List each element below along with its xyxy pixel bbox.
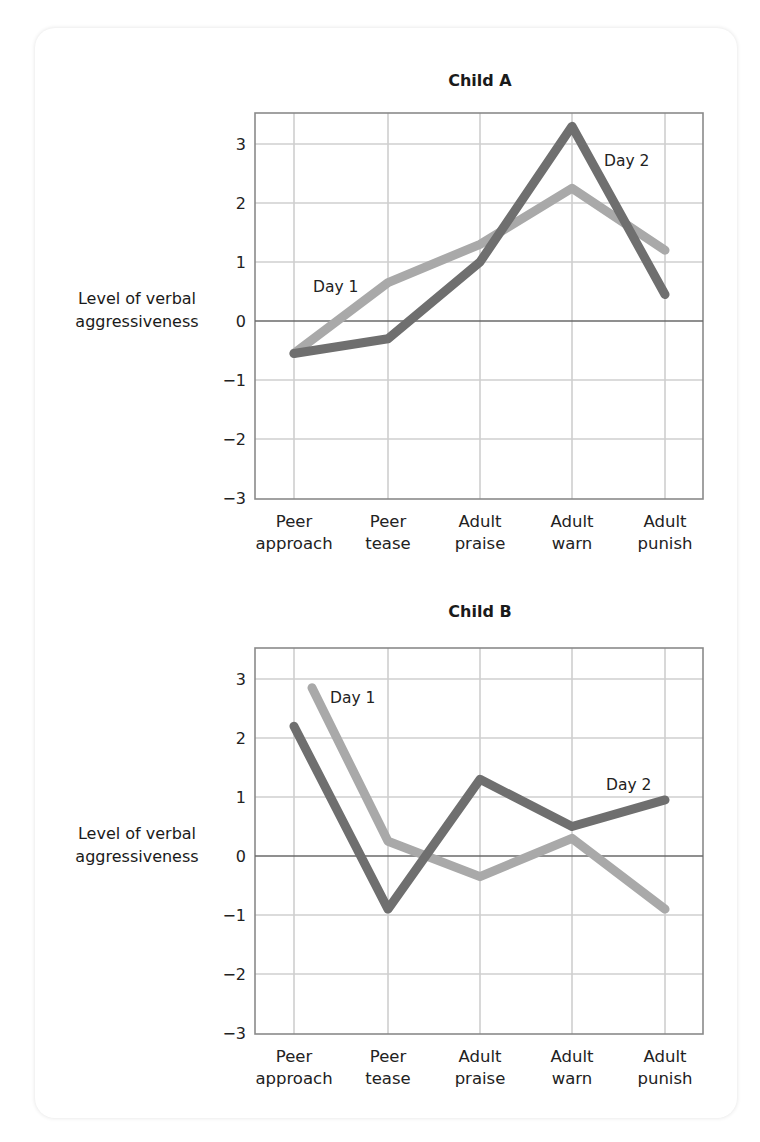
y-tick-label: −1 [222, 371, 246, 390]
y-tick-label: −1 [222, 906, 246, 925]
x-tick-label: Adult [551, 512, 595, 531]
y-tick-label: −2 [222, 430, 246, 449]
annotation-day-2: Day 2 [604, 152, 649, 170]
x-tick-label: Peer [276, 512, 313, 531]
y-tick-label: −3 [222, 1024, 246, 1043]
chart-child-a: Child A3210−1−2−3Level of verbalaggressi… [75, 71, 703, 553]
chart-child-b: Child B3210−1−2−3Level of verbalaggressi… [75, 602, 703, 1088]
annotation-day-1: Day 1 [330, 689, 375, 707]
x-tick-label: punish [637, 1069, 692, 1088]
y-tick-label: 0 [236, 312, 246, 331]
y-axis-label: Level of verbal [78, 824, 196, 843]
x-tick-label: Adult [459, 1047, 503, 1066]
y-tick-label: 2 [236, 729, 246, 748]
series-day-1 [312, 688, 665, 909]
y-axis-label: aggressiveness [75, 847, 198, 866]
figure: Child A3210−1−2−3Level of verbalaggressi… [0, 0, 760, 1142]
x-tick-label: Adult [459, 512, 503, 531]
x-tick-label: Adult [644, 512, 688, 531]
annotation-day-2: Day 2 [606, 776, 651, 794]
y-axis-label: aggressiveness [75, 312, 198, 331]
x-tick-label: warn [552, 1069, 593, 1088]
x-tick-label: Adult [644, 1047, 688, 1066]
y-tick-label: 1 [236, 253, 246, 272]
y-tick-label: 3 [236, 135, 246, 154]
y-axis-label: Level of verbal [78, 289, 196, 308]
x-tick-label: Peer [370, 512, 407, 531]
y-tick-label: 0 [236, 847, 246, 866]
y-tick-label: −3 [222, 489, 246, 508]
chart-title: Child A [448, 71, 512, 90]
x-tick-label: Peer [276, 1047, 313, 1066]
y-tick-label: 3 [236, 670, 246, 689]
x-tick-label: approach [255, 534, 332, 553]
x-tick-label: Adult [551, 1047, 595, 1066]
y-tick-label: −2 [222, 965, 246, 984]
y-tick-label: 1 [236, 788, 246, 807]
x-tick-label: punish [637, 534, 692, 553]
x-tick-label: Peer [370, 1047, 407, 1066]
x-tick-label: warn [552, 534, 593, 553]
chart-title: Child B [448, 602, 511, 621]
x-tick-label: praise [455, 1069, 506, 1088]
x-tick-label: tease [365, 534, 410, 553]
x-tick-label: approach [255, 1069, 332, 1088]
x-tick-label: praise [455, 534, 506, 553]
x-tick-label: tease [365, 1069, 410, 1088]
plot-frame [255, 113, 703, 499]
y-tick-label: 2 [236, 194, 246, 213]
annotation-day-1: Day 1 [313, 278, 358, 296]
